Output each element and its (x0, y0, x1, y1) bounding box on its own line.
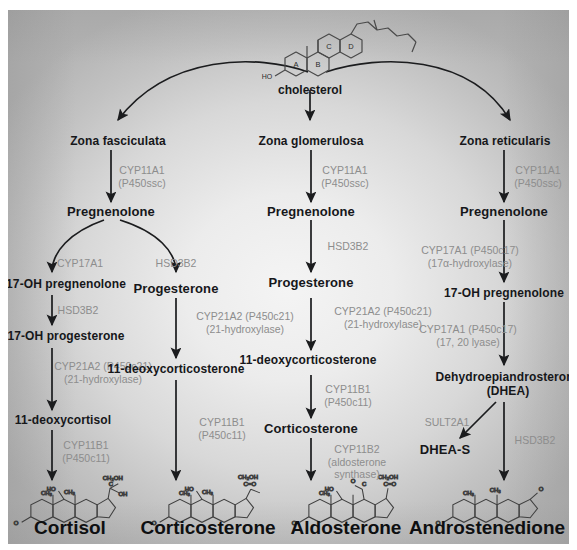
enzyme-c2-cyp11b1: CYP11B1 (P450c11) (198, 416, 246, 441)
enzyme-c4-cyp11a1: CYP11A1 (P450ssc) (514, 164, 561, 189)
metabolite-c4-pregnenolone: Pregnenolone (460, 204, 548, 219)
metabolite-c1-11-deoxycortisol: 11-deoxycortisol (15, 413, 111, 427)
ring-label-c: C (326, 42, 332, 51)
metabolite-c4-dhea-line1: Dehydroepiandrosterone (433, 370, 569, 384)
svg-text:HO: HO (47, 486, 56, 492)
enzyme-c3-cyp21a2: CYP21A2 (P450c21) (21-hydroxylase) (334, 305, 431, 330)
enzyme-c2-cyp11b1-name: CYP11B1 (198, 416, 246, 429)
svg-text:C=O: C=O (384, 481, 397, 487)
enzyme-c3-cyp11b2-alt3: synthase) (328, 468, 386, 481)
zone-header-reticularis: Zona reticularis (460, 134, 551, 148)
svg-text:HO: HO (325, 486, 334, 492)
metabolite-c4-17oh-pregnenolone: 17-OH pregnenolone (444, 286, 564, 300)
enzyme-c3-cyp21a2-alt: (21-hydroxylase) (334, 317, 431, 330)
svg-text:C=O: C=O (244, 481, 257, 487)
svg-text:CH₃: CH₃ (463, 490, 475, 496)
enzyme-c1-cyp11b1: CYP11B1 (P450c11) (62, 439, 110, 464)
cholesterol-ho-label: HO (262, 73, 273, 80)
enzyme-c3-cyp11a1-alt: (P450ssc) (321, 176, 368, 189)
figure-canvas: A B C D HO O CH₃ CH₃ HO C (0, 0, 577, 550)
svg-text:C: C (362, 481, 367, 487)
enzyme-c3-cyp21a2-name: CYP21A2 (P450c21) (334, 305, 431, 318)
enzyme-c3-hsd3b2: HSD3B2 (328, 240, 369, 253)
metabolite-c3-corticosterone: Corticosterone (264, 421, 358, 436)
svg-text:CH₃: CH₃ (202, 489, 214, 495)
steroidogenesis-pathway-panel: A B C D HO O CH₃ CH₃ HO C (8, 10, 569, 544)
ring-label-d: D (348, 42, 354, 51)
zone-header-glomerulosa: Zona glomerulosa (259, 134, 364, 148)
metabolite-c2-11-deoxycorticosterone: 11-deoxycorticosterone (108, 362, 245, 376)
metabolite-c3-11-deoxycorticosterone: 11-deoxycorticosterone (240, 353, 377, 367)
enzyme-c4-cyp17a1-hyd-alt: (17α-hydroxylase) (421, 256, 518, 269)
product-label-cortisol: Cortisol (34, 517, 106, 539)
enzyme-c4-hsd3b2: HSD3B2 (515, 434, 556, 447)
product-label-corticosterone: Corticosterone (140, 517, 275, 539)
enzyme-c2-cyp11b1-alt: (P450c11) (198, 428, 246, 441)
enzyme-c1-cyp11a1-name: CYP11A1 (118, 164, 165, 177)
enzyme-c4-cyp17a1-hyd-name: CYP17A1 (P450c17) (421, 244, 518, 257)
enzyme-c1-cyp11b1-alt: (P450c11) (62, 451, 110, 464)
ring-label-a: A (293, 60, 298, 69)
enzyme-c3-cyp11b1-name: CYP11B1 (324, 383, 372, 396)
svg-text:CH₃: CH₃ (490, 487, 502, 493)
svg-text:CH₂OH: CH₂OH (238, 474, 258, 480)
enzyme-c4-cyp17a1-lya-name: CYP17A1 (P450c17) (419, 323, 516, 336)
svg-text:OH: OH (118, 491, 127, 497)
metabolite-c1-17oh-pregnenolone: 17-OH pregnenolone (8, 277, 126, 291)
product-label-aldosterone: Aldosterone (291, 517, 402, 539)
enzyme-c2-cyp21a2-alt: (21-hydroxylase) (196, 322, 293, 335)
metabolite-c1-17oh-progesterone: 17-OH progesterone (8, 329, 125, 343)
zone-header-fasciculata: Zona fasciculata (70, 134, 166, 148)
enzyme-c3-cyp11a1: CYP11A1 (P450ssc) (321, 164, 368, 189)
enzyme-c1-hsd3b2: HSD3B2 (58, 304, 99, 317)
enzyme-c3-cyp11a1-name: CYP11A1 (321, 164, 368, 177)
metabolite-c1-pregnenolone: Pregnenolone (67, 204, 155, 219)
enzyme-c4-cyp17a1-hydroxylase: CYP17A1 (P450c17) (17α-hydroxylase) (421, 244, 518, 269)
metabolite-c4-dhea-line2: (DHEA) (433, 384, 569, 398)
enzyme-c1-cyp17a1: CYP17A1 (57, 257, 103, 270)
enzyme-c3-cyp11b1: CYP11B1 (P450c11) (324, 383, 372, 408)
enzyme-c1-cyp11a1: CYP11A1 (P450ssc) (118, 164, 165, 189)
svg-text:O: O (14, 520, 19, 526)
svg-text:C: C (109, 481, 114, 487)
metabolite-c2-progesterone: Progesterone (133, 281, 218, 296)
enzyme-c2-cyp21a2-name: CYP21A2 (P450c21) (196, 310, 293, 323)
enzyme-c1-cyp11a1-alt: (P450ssc) (118, 176, 165, 189)
enzyme-c3-cyp11b2-name: CYP11B2 (328, 443, 386, 456)
product-label-androstenedione: Androstenedione (409, 517, 565, 539)
svg-text:CH₃: CH₃ (64, 489, 76, 495)
enzyme-c2-cyp21a2: CYP21A2 (P450c21) (21-hydroxylase) (196, 310, 293, 335)
svg-text:CH₂OH: CH₂OH (103, 475, 123, 481)
svg-text:HO: HO (185, 486, 194, 492)
metabolite-c3-progesterone: Progesterone (268, 275, 353, 290)
ring-label-b: B (315, 60, 320, 69)
metabolite-c4-dhea: Dehydroepiandrosterone (DHEA) (433, 370, 569, 398)
enzyme-c1-hsd3b2-branch: HSD3B2 (156, 257, 197, 270)
enzyme-c4-cyp17a1-lyase: CYP17A1 (P450c17) (17, 20 lyase) (419, 323, 516, 348)
enzyme-c3-cyp11b2: CYP11B2 (aldosterone synthase) (328, 443, 386, 481)
metabolite-c4-dhea-s: DHEA-S (420, 442, 470, 457)
enzyme-c4-cyp11a1-name: CYP11A1 (514, 164, 561, 177)
enzyme-c4-cyp11a1-alt: (P450ssc) (514, 176, 561, 189)
enzyme-c1-cyp11b1-name: CYP11B1 (62, 439, 110, 452)
cholesterol-label: cholesterol (278, 83, 342, 97)
metabolite-c3-pregnenolone: Pregnenolone (267, 204, 355, 219)
enzyme-c4-cyp17a1-lya-alt: (17, 20 lyase) (419, 335, 516, 348)
enzyme-c3-cyp11b1-alt: (P450c11) (324, 395, 372, 408)
enzyme-c4-sult2a1: SULT2A1 (425, 416, 470, 429)
svg-text:O: O (539, 486, 544, 492)
enzyme-c3-cyp11b2-alt2: (aldosterone (328, 456, 386, 469)
